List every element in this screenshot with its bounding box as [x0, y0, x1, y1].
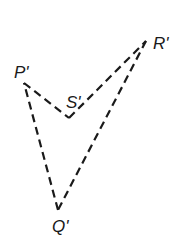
edge-q-p: [24, 83, 58, 210]
edge-r-q: [58, 41, 146, 210]
vertex-label-q: Q': [52, 217, 69, 236]
vertex-label-s: S': [66, 93, 81, 112]
diagram-canvas: P' S' R' Q': [0, 0, 193, 246]
vertex-label-p: P': [14, 63, 29, 82]
vertex-label-r: R': [153, 34, 169, 53]
edge-p-s: [24, 83, 69, 118]
